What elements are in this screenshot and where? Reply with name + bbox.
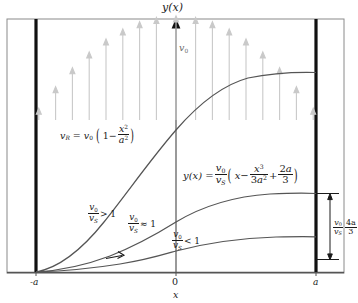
drift-bracket-label: v0 vS 4a 3 [332,219,358,237]
current-vector-field [36,16,315,120]
current-arrow [104,39,109,120]
ratio-label-slow: v0 vS < 1 [171,230,200,251]
current-arrow [120,29,125,120]
current-arrow [193,17,198,120]
trajectory-equation: y(x) = v0 vS ( x− x3 3a2 + 2a 3 ) [183,163,298,186]
current-arrow [154,17,159,120]
pointer-mark [106,252,124,259]
x-tick-label-zero: 0 [172,277,178,287]
current-arrow [174,16,179,120]
x-tick-label-a: a [313,278,318,287]
ratio-label-fast: v0 vS > 1 [87,203,116,224]
current-arrow [277,68,282,120]
current-arrow [137,22,142,120]
current-arrow [53,87,58,120]
x-axis-label: x [173,290,178,300]
current-arrow [87,52,92,120]
current-arrow [210,22,215,120]
current-arrow [227,29,232,120]
v0-label: v0 [179,43,188,55]
x-tick-label-minus-a: -a [30,278,38,287]
ratio-label-equal: v0 vS ≈ 1 [127,213,156,234]
current-arrow [294,87,299,120]
current-arrow [260,52,265,120]
current-arrow [70,68,75,120]
current-profile-formula: vR = v0 ( 1− x2 a2 ) [60,124,134,144]
y-axis-label: y(x) [162,2,183,13]
